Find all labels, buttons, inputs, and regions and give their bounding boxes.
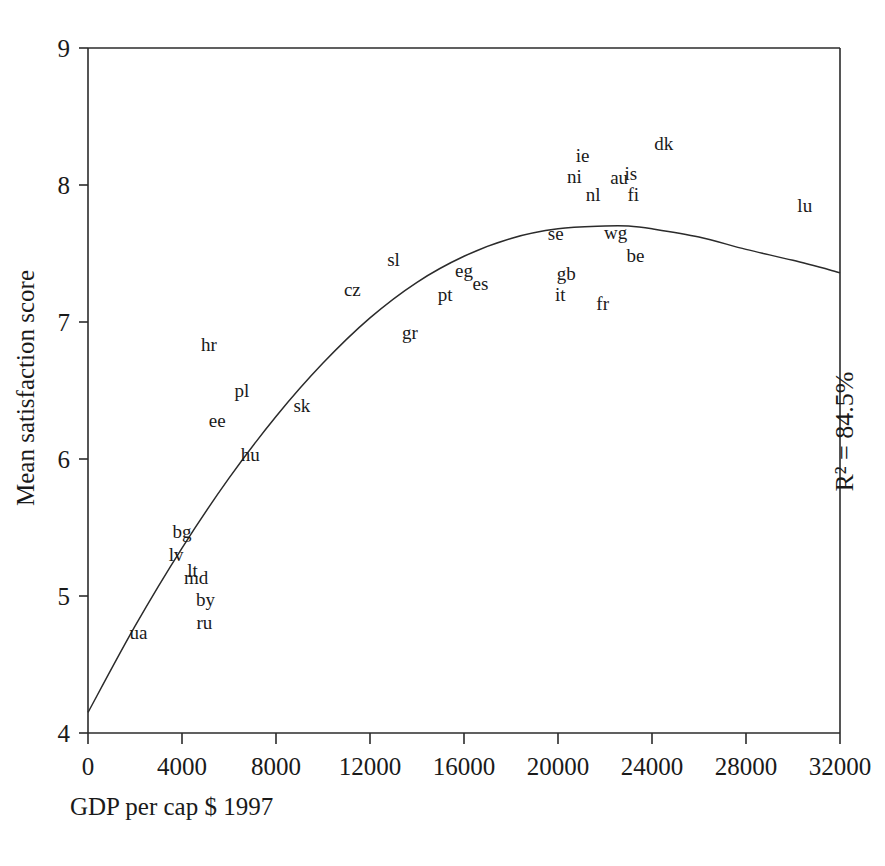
data-point-label-is: is	[625, 163, 638, 184]
x-tick-label: 4000	[157, 753, 207, 780]
data-point-label-pl: pl	[235, 380, 250, 401]
y-tick-label: 4	[58, 720, 71, 747]
data-point-label-ie: ie	[576, 145, 590, 166]
data-point-label-md: md	[184, 567, 209, 588]
y-tick-label: 8	[58, 172, 71, 199]
data-point-label-hr: hr	[201, 334, 218, 355]
x-tick-label: 24000	[621, 753, 684, 780]
x-axis-title: GDP per cap $ 1997	[70, 793, 273, 820]
data-point-label-lu: lu	[797, 195, 812, 216]
data-point-label-pt: pt	[438, 284, 454, 305]
annotations: R² = 84.5%	[830, 372, 859, 492]
axis-titles: Mean satisfaction scoreGDP per cap $ 199…	[12, 270, 273, 820]
data-point-label-eg: eg	[455, 260, 473, 281]
y-tick-label: 5	[58, 583, 71, 610]
x-tick-label: 20000	[527, 753, 590, 780]
data-point-label-ru: ru	[196, 612, 212, 633]
data-point-label-it: it	[555, 284, 566, 305]
data-point-label-gr: gr	[402, 322, 419, 343]
x-tick-label: 12000	[339, 753, 402, 780]
x-tick-label: 0	[82, 753, 95, 780]
data-point-label-sk: sk	[293, 395, 310, 416]
data-point-label-dk: dk	[654, 133, 674, 154]
y-tick-label: 9	[58, 35, 71, 62]
data-point-label-ee: ee	[209, 410, 226, 431]
data-point-label-ni: ni	[567, 166, 582, 187]
axis-tick-labels: 4567890400080001200016000200002400028000…	[58, 35, 872, 780]
data-point-label-bg: bg	[173, 521, 193, 542]
scatter-plot: 4567890400080001200016000200002400028000…	[0, 0, 885, 866]
data-point-label-sl: sl	[387, 249, 400, 270]
data-point-label-fi: fi	[627, 184, 639, 205]
quadratic-fit-curve	[88, 226, 840, 713]
data-point-labels: uabglvltmdbyrueehuhrplskczslgrptegesitgb…	[130, 133, 813, 643]
data-point-label-nl: nl	[586, 184, 601, 205]
data-point-label-se: se	[548, 223, 564, 244]
data-point-label-by: by	[196, 589, 216, 610]
y-tick-label: 6	[58, 446, 71, 473]
data-point-label-be: be	[627, 245, 645, 266]
x-tick-label: 8000	[251, 753, 301, 780]
x-tick-label: 28000	[715, 753, 778, 780]
chart-container: 4567890400080001200016000200002400028000…	[0, 0, 885, 866]
data-point-label-hu: hu	[241, 444, 261, 465]
data-point-label-fr: fr	[596, 293, 609, 314]
x-tick-label: 16000	[433, 753, 496, 780]
y-tick-label: 7	[58, 309, 71, 336]
data-point-label-gb: gb	[557, 263, 576, 284]
x-tick-label: 32000	[809, 753, 872, 780]
data-point-label-cz: cz	[344, 279, 361, 300]
data-point-label-es: es	[473, 273, 489, 294]
data-point-label-ua: ua	[130, 622, 149, 643]
axis-ticks	[79, 48, 840, 744]
r-squared-annotation: R² = 84.5%	[830, 372, 859, 492]
data-point-label-wg: wg	[604, 222, 628, 243]
y-axis-title: Mean satisfaction score	[12, 270, 39, 506]
data-point-label-lv: lv	[169, 544, 184, 565]
fit-curve	[88, 226, 840, 713]
